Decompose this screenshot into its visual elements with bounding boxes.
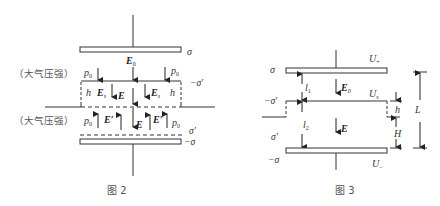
lower-sigma-prime-label: σ′: [189, 126, 197, 136]
diagram-canvas: σ E0 （大气压强） p0 p0 −σ′ h Es E Es h （大气压: [0, 0, 440, 206]
es-left-label: Es: [96, 87, 107, 99]
p0-right-upper: p0: [170, 65, 179, 77]
figure-3-caption: 图 3: [335, 185, 355, 196]
bottom-plate-charge-label: −σ: [184, 137, 195, 147]
bottom-plate: [80, 139, 181, 144]
top-plate: [80, 47, 181, 52]
figure-2-caption: 图 2: [107, 185, 127, 196]
figure-3: U+ σ l1 E0 Us −σ′ h H L l: [262, 50, 427, 196]
atmospheric-pressure-label-lower: （大气压强）: [14, 115, 74, 126]
e0-label: E0: [125, 55, 136, 67]
upper-neg-sigma-prime-label: −σ′: [190, 78, 204, 88]
top-plate-3: [286, 68, 387, 73]
es-right-label: Es: [150, 87, 161, 99]
h-left-label: h: [86, 87, 91, 98]
neg-sigma-prime-label-3: −σ′: [264, 96, 278, 106]
bottom-plate-3: [286, 148, 387, 153]
H-label: H: [393, 128, 402, 139]
e0-label-3: E0: [340, 82, 351, 94]
u-plus-label: U+: [369, 53, 380, 65]
e-label-3: E: [340, 123, 348, 134]
us-label: Us: [369, 88, 379, 100]
u-minus-label: U−: [372, 158, 383, 170]
h-label-3: h: [395, 104, 400, 115]
e-label-upper: E: [117, 90, 125, 101]
p0-left-upper: p0: [83, 67, 92, 79]
L-label: L: [414, 104, 421, 115]
figure-2: σ E0 （大气压强） p0 p0 −σ′ h Es E Es h （大气压: [14, 15, 215, 196]
l1-label: l1: [305, 82, 311, 94]
sigma-prime-label-3: σ′: [271, 132, 279, 142]
e-label-lower: E: [135, 119, 143, 130]
top-plate-charge-label: σ: [187, 46, 193, 57]
p0-left-lower: p0: [83, 115, 92, 127]
atmospheric-pressure-label-upper: （大气压强）: [14, 68, 74, 79]
h-right-label: h: [170, 87, 175, 98]
e-prime-left-label: E′: [103, 114, 114, 125]
bottom-plate-charge-label-3: −σ: [268, 155, 279, 165]
e-prime-right-label: E′: [152, 114, 163, 125]
l2-label: l2: [303, 119, 309, 131]
top-plate-charge-label-3: σ: [270, 64, 276, 75]
p0-right-lower: p0: [171, 117, 180, 129]
